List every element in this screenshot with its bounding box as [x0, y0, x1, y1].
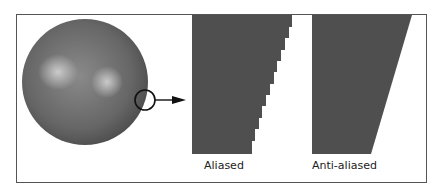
sphere-graphic — [22, 19, 148, 145]
anti-aliased-label: Anti-aliased — [312, 159, 377, 172]
aliased-panel — [192, 15, 292, 154]
anti-aliased-panel — [312, 15, 412, 154]
arrow-right-icon — [155, 96, 186, 104]
aliased-label: Aliased — [204, 159, 244, 172]
